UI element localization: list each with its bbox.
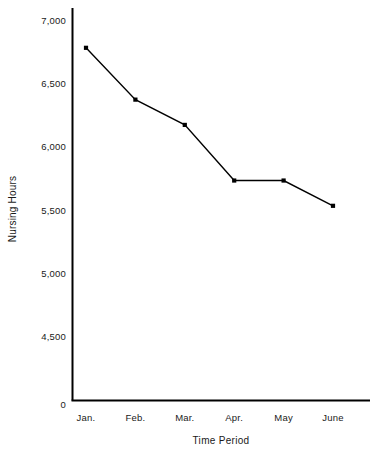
data-series-line xyxy=(86,48,333,206)
chart-plot-area xyxy=(0,0,377,453)
data-point xyxy=(232,178,236,182)
data-point xyxy=(133,98,137,102)
data-point xyxy=(84,46,88,50)
line-chart: 7,0006,5006,0005,5005,0004,5000 Jan.Feb.… xyxy=(0,0,377,453)
data-point xyxy=(183,123,187,127)
data-point xyxy=(282,178,286,182)
data-point xyxy=(331,204,335,208)
x-axis-title: Time Period xyxy=(72,435,370,446)
data-point-markers xyxy=(84,46,335,208)
